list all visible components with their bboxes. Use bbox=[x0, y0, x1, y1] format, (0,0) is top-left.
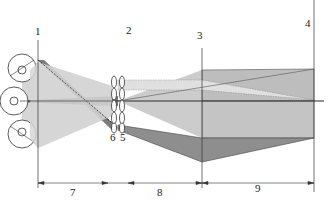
label-dim-7: 7 bbox=[70, 186, 76, 198]
optical-diagram: 1 2 3 4 6 5 7 8 9 bbox=[0, 0, 330, 201]
lens-5 bbox=[120, 76, 125, 133]
label-plane-4: 4 bbox=[305, 17, 311, 29]
projected-beam-lower bbox=[202, 101, 314, 138]
label-plane-3: 3 bbox=[197, 29, 203, 41]
label-dim-8: 8 bbox=[157, 186, 163, 198]
label-plane-2: 2 bbox=[126, 24, 132, 36]
label-dim-9: 9 bbox=[255, 182, 261, 194]
label-lens-5: 5 bbox=[120, 131, 126, 143]
dimension-lines bbox=[38, 182, 314, 185]
label-plane-1: 1 bbox=[35, 25, 41, 37]
lens-6 bbox=[112, 76, 117, 133]
source-fan-overlay bbox=[30, 62, 112, 148]
label-lens-6: 6 bbox=[110, 131, 116, 143]
